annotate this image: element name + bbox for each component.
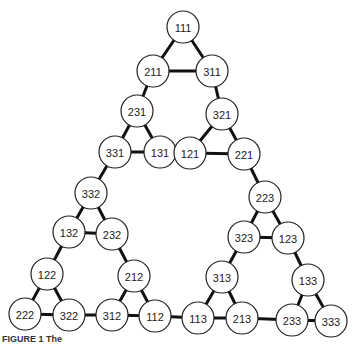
node-331: 331 bbox=[99, 136, 131, 168]
node-label: 132 bbox=[60, 227, 78, 239]
node-label: 331 bbox=[106, 147, 124, 159]
node-label: 133 bbox=[299, 275, 317, 287]
node-label: 312 bbox=[103, 310, 121, 322]
node-label: 233 bbox=[283, 315, 301, 327]
node-332: 332 bbox=[75, 177, 107, 209]
node-321: 321 bbox=[206, 98, 238, 130]
node-label: 221 bbox=[235, 149, 253, 161]
node-123: 123 bbox=[272, 222, 304, 254]
node-312: 312 bbox=[96, 299, 128, 331]
node-212: 212 bbox=[118, 260, 150, 292]
node-label: 111 bbox=[175, 22, 192, 34]
node-label: 232 bbox=[103, 229, 121, 241]
node-label: 211 bbox=[144, 66, 162, 78]
node-222: 222 bbox=[9, 298, 41, 330]
node-label: 313 bbox=[213, 272, 231, 284]
node-label: 112 bbox=[146, 311, 164, 323]
node-label: 123 bbox=[279, 233, 297, 245]
node-label: 321 bbox=[213, 109, 231, 121]
node-121: 121 bbox=[174, 137, 206, 169]
node-label: 333 bbox=[322, 316, 340, 328]
edges-layer bbox=[25, 27, 331, 321]
node-112: 112 bbox=[139, 300, 171, 332]
node-label: 322 bbox=[60, 310, 78, 322]
node-221: 221 bbox=[228, 138, 260, 170]
nodes-layer: 1112113112313213311311212213322231322323… bbox=[9, 11, 347, 337]
node-label: 113 bbox=[189, 313, 207, 325]
node-label: 332 bbox=[82, 188, 100, 200]
node-233: 233 bbox=[276, 304, 308, 336]
node-231: 231 bbox=[121, 95, 153, 127]
node-223: 223 bbox=[249, 181, 281, 213]
node-313: 313 bbox=[206, 261, 238, 293]
node-111: 111 bbox=[167, 11, 199, 43]
node-label: 121 bbox=[181, 148, 199, 160]
node-132: 132 bbox=[53, 216, 85, 248]
node-211: 211 bbox=[137, 55, 169, 87]
node-232: 232 bbox=[96, 218, 128, 250]
node-113: 113 bbox=[182, 302, 214, 334]
node-322: 322 bbox=[53, 299, 85, 331]
node-311: 311 bbox=[196, 55, 228, 87]
node-333: 333 bbox=[315, 305, 347, 337]
node-label: 213 bbox=[233, 313, 251, 325]
node-213: 213 bbox=[226, 302, 258, 334]
sierpinski-graph: 1112113112313213311311212213322231322323… bbox=[0, 0, 357, 344]
node-131: 131 bbox=[144, 136, 176, 168]
node-label: 222 bbox=[16, 309, 34, 321]
node-323: 323 bbox=[228, 221, 260, 253]
diagram-canvas: 1112113112313213311311212213322231322323… bbox=[0, 0, 357, 344]
node-label: 231 bbox=[128, 106, 146, 118]
node-label: 212 bbox=[125, 271, 143, 283]
node-label: 131 bbox=[151, 147, 169, 159]
figure-caption: FIGURE 1 The bbox=[2, 334, 62, 344]
node-label: 223 bbox=[256, 192, 274, 204]
node-133: 133 bbox=[292, 264, 324, 296]
node-label: 323 bbox=[235, 232, 253, 244]
node-label: 122 bbox=[38, 269, 56, 281]
node-label: 311 bbox=[203, 66, 221, 78]
node-122: 122 bbox=[31, 258, 63, 290]
